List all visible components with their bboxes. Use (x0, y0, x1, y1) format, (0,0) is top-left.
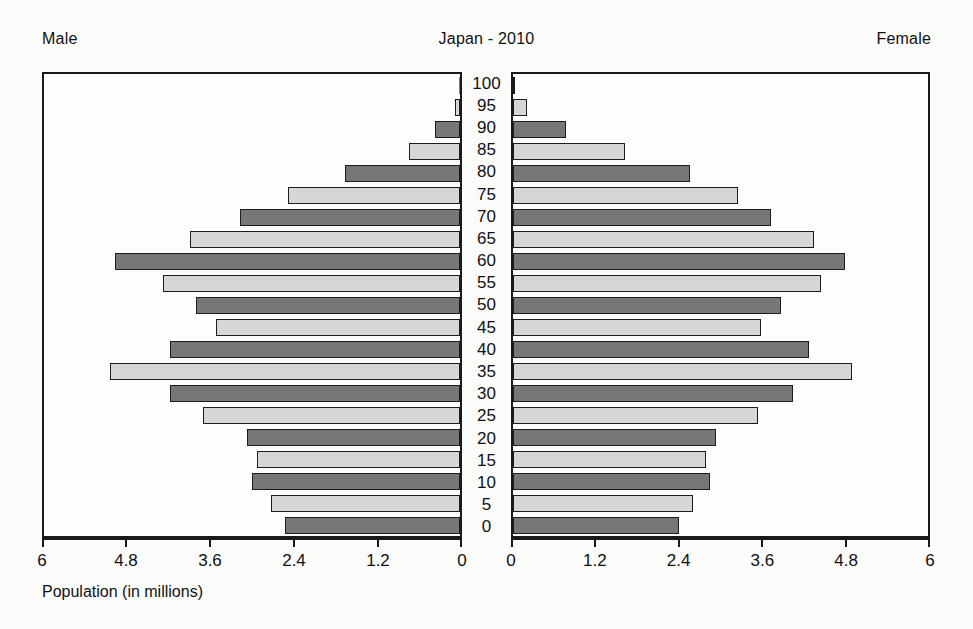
bar-row (44, 470, 460, 492)
age-label-85: 85 (462, 139, 511, 161)
female-bar-age-55 (513, 275, 821, 292)
male-bar-age-45 (216, 319, 460, 336)
bar-row (513, 118, 928, 140)
male-tick-2.4 (293, 538, 295, 547)
male-bar-age-85 (409, 143, 460, 160)
female-side-label: Female (876, 30, 931, 48)
age-label-10: 10 (462, 471, 511, 493)
age-label-50: 50 (462, 294, 511, 316)
bar-row (44, 96, 460, 118)
male-tick-label-1.2: 1.2 (366, 551, 390, 571)
female-axis-line (511, 538, 930, 540)
age-label-35: 35 (462, 360, 511, 382)
age-axis: 1009590858075706560555045403530252015105… (462, 72, 511, 538)
bar-row (513, 184, 928, 206)
bar-row (513, 74, 928, 96)
female-bar-age-40 (513, 341, 809, 358)
female-bar-age-5 (513, 495, 693, 512)
female-bar-age-75 (513, 187, 738, 204)
age-label-5: 5 (462, 494, 511, 516)
male-bar-age-70 (240, 209, 460, 226)
bar-row (513, 316, 928, 338)
female-bar-age-60 (513, 253, 845, 270)
female-bar-age-35 (513, 363, 852, 380)
male-tick-label-2.4: 2.4 (282, 551, 306, 571)
bar-row (44, 294, 460, 316)
bar-row (44, 206, 460, 228)
female-x-axis (511, 538, 930, 548)
bar-row (44, 492, 460, 514)
bar-row (513, 470, 928, 492)
female-bar-rows (513, 74, 928, 536)
age-label-45: 45 (462, 316, 511, 338)
bar-row (513, 492, 928, 514)
male-bar-age-100 (459, 77, 460, 94)
female-bar-age-50 (513, 297, 781, 314)
bar-row (513, 250, 928, 272)
bar-row (513, 272, 928, 294)
female-tick-label-2.4: 2.4 (667, 551, 691, 571)
female-bar-age-85 (513, 143, 625, 160)
female-tick-label-4.8: 4.8 (834, 551, 858, 571)
male-bar-age-65 (190, 231, 461, 248)
bar-row (44, 404, 460, 426)
bar-row (513, 404, 928, 426)
female-tick-2.4 (678, 538, 680, 547)
male-bar-age-30 (170, 385, 460, 402)
male-bar-age-5 (271, 495, 461, 512)
bar-row (44, 228, 460, 250)
female-tick-3.6 (761, 538, 763, 547)
male-x-tick-labels: 64.83.62.41.20 (42, 551, 462, 573)
age-label-80: 80 (462, 161, 511, 183)
bar-row (44, 316, 460, 338)
age-label-90: 90 (462, 116, 511, 138)
male-tick-label-4.8: 4.8 (114, 551, 138, 571)
female-tick-4.8 (845, 538, 847, 547)
female-bar-age-80 (513, 165, 690, 182)
age-label-0: 0 (462, 516, 511, 538)
bar-row (44, 118, 460, 140)
bar-row (513, 360, 928, 382)
chart-header: Male Japan - 2010 Female (0, 30, 973, 54)
male-tick-label-6: 6 (37, 551, 46, 571)
age-label-65: 65 (462, 227, 511, 249)
bar-row (513, 140, 928, 162)
male-tick-4.8 (125, 538, 127, 547)
male-bar-age-15 (257, 451, 460, 468)
male-plot-panel (42, 72, 462, 538)
female-bar-age-95 (513, 99, 527, 116)
female-bar-age-0 (513, 517, 679, 534)
female-tick-0 (511, 538, 513, 547)
bar-row (44, 426, 460, 448)
age-label-100: 100 (462, 72, 511, 94)
female-plot-panel (511, 72, 930, 538)
bar-row (44, 74, 460, 96)
age-label-60: 60 (462, 250, 511, 272)
male-bar-age-20 (247, 429, 460, 446)
male-axis-line (42, 538, 462, 540)
age-label-25: 25 (462, 405, 511, 427)
male-bar-age-60 (115, 253, 460, 270)
male-bar-rows (44, 74, 460, 536)
age-label-20: 20 (462, 427, 511, 449)
female-bar-age-30 (513, 385, 793, 402)
female-bar-age-100 (513, 77, 515, 94)
female-x-tick-labels: 01.22.43.64.86 (511, 551, 930, 573)
axis-caption: Population (in millions) (42, 583, 203, 601)
page-title: Japan - 2010 (0, 30, 973, 48)
female-tick-label-0: 0 (506, 551, 515, 571)
male-tick-6 (42, 538, 44, 547)
female-tick-6 (928, 538, 930, 547)
male-tick-3.6 (209, 538, 211, 547)
male-bar-age-50 (196, 297, 460, 314)
male-bar-age-35 (110, 363, 460, 380)
male-x-axis (42, 538, 462, 548)
male-bar-age-55 (163, 275, 460, 292)
bar-row (44, 360, 460, 382)
bar-row (44, 184, 460, 206)
male-bar-age-75 (288, 187, 460, 204)
male-bar-age-90 (435, 121, 460, 138)
bar-row (513, 162, 928, 184)
male-bar-age-80 (345, 165, 460, 182)
age-label-30: 30 (462, 383, 511, 405)
